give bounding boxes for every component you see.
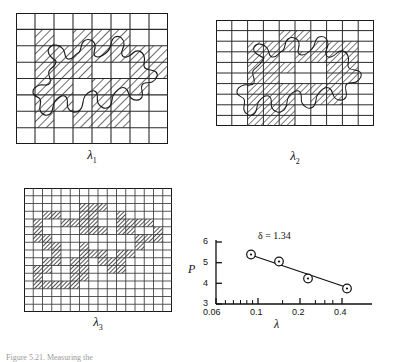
- ytick-4: 4: [203, 278, 208, 288]
- grid-graphic-3: [24, 188, 172, 312]
- fit-line: [251, 255, 347, 288]
- panel-1-label: λ1: [16, 147, 168, 165]
- panel-2-label: λ2: [216, 148, 374, 166]
- plot-graphic: [196, 232, 386, 332]
- x-axis-label: λ: [274, 317, 279, 332]
- delta-annotation: δ = 1.34: [258, 230, 291, 241]
- grid-panel-lambda2: λ2: [216, 20, 374, 126]
- xtick-04: 0.4: [334, 307, 347, 317]
- xtick-01: 0.1: [250, 307, 263, 317]
- ytick-6: 6: [203, 236, 208, 246]
- grid-graphic-1: [16, 13, 168, 144]
- ytick-5: 5: [203, 257, 208, 267]
- panel-3-label: λ3: [24, 314, 172, 332]
- grid-graphic-2: [216, 20, 374, 126]
- figure-caption: Figure 5.21. Measuring the: [6, 353, 93, 362]
- xtick-02: 0.2: [292, 307, 305, 317]
- log-log-plot: 6 5 4 3 0.06 0.1 0.2 0.4 P λ δ = 1.34: [196, 232, 386, 332]
- grid-panel-lambda3: λ3: [24, 188, 172, 312]
- xtick-006: 0.06: [203, 307, 221, 317]
- y-axis-label: P: [188, 262, 195, 277]
- grid-panel-lambda1: λ1: [16, 13, 168, 144]
